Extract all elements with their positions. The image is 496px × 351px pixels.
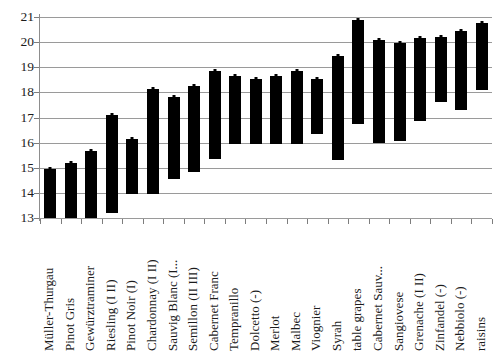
bar [394, 43, 406, 141]
bar [106, 115, 118, 213]
bar-cap [110, 113, 113, 115]
bar-cap [460, 29, 463, 31]
bar-cap [480, 21, 483, 23]
x-tick-label: Malbec [289, 312, 302, 351]
x-tick-label: Dolcetto (-) [248, 290, 261, 351]
y-tick: 13 [0, 211, 34, 225]
y-tick-label: 17 [6, 111, 34, 125]
bar [229, 76, 241, 144]
x-tick-label: Nebbiolo (-) [453, 286, 466, 351]
bar [455, 31, 467, 110]
x-tick-label: raisins [474, 317, 487, 351]
bar [291, 71, 303, 144]
y-tick: 16 [0, 136, 34, 150]
bar [311, 79, 323, 134]
bar-cap [439, 35, 442, 37]
bar [44, 169, 56, 218]
bar [126, 139, 138, 194]
x-tick-label: Merlot [268, 316, 281, 351]
bar [65, 163, 77, 218]
bar-cap [254, 77, 257, 79]
x-tick-label: table grapes [350, 289, 363, 351]
y-tick-label: 18 [6, 85, 34, 99]
y-tick: 20 [0, 35, 34, 49]
y-tick-label: 16 [6, 136, 34, 150]
y-tick: 21 [0, 10, 34, 24]
bar-cap [336, 54, 339, 56]
bar [332, 56, 344, 160]
y-tick: 17 [0, 111, 34, 125]
bar-cap [152, 87, 155, 89]
bar-cap [49, 167, 52, 169]
bar-cap [172, 95, 175, 97]
bar [373, 40, 385, 143]
x-tick-label: Riesling (I II) [104, 280, 117, 351]
bar-cap [131, 137, 134, 139]
y-tick-label: 20 [6, 35, 34, 49]
bar-cap [295, 69, 298, 71]
x-tick-label: Sangiovese [392, 292, 405, 351]
x-tick-label: Pinot Gris [63, 298, 76, 351]
bar-cap [419, 36, 422, 38]
bar-cap [234, 74, 237, 76]
bar [352, 20, 364, 124]
bar-cap [213, 69, 216, 71]
y-tick-label: 15 [6, 161, 34, 175]
bar-cap [275, 74, 278, 76]
x-tick-label: Gewürztraminer [83, 266, 96, 351]
x-tick-label: Sauvig Blanc (I... [166, 260, 179, 351]
x-tick-label: Syrah [330, 321, 343, 351]
bar [414, 38, 426, 121]
bar-cap [398, 41, 401, 43]
x-tick-label: Semillon (II III) [186, 267, 199, 351]
y-tick-label: 14 [6, 186, 34, 200]
bar [476, 23, 488, 90]
bar [188, 86, 200, 171]
bar [147, 89, 159, 195]
y-tick-label: 13 [6, 211, 34, 225]
x-tick-label: Cabernet Franc [207, 271, 220, 351]
bar [209, 71, 221, 159]
y-tick: 19 [0, 60, 34, 74]
x-tick-label: Pinot Noir (I) [124, 280, 137, 351]
y-tick-label: 21 [6, 10, 34, 24]
plot-area [40, 17, 492, 218]
x-tick-label: Grenache (I II) [412, 273, 425, 351]
bar [85, 151, 97, 218]
bar [270, 76, 282, 144]
x-tick-label: Müller-Thurgau [42, 268, 55, 351]
bar [250, 79, 262, 144]
bar-cap [378, 38, 381, 40]
y-tick: 18 [0, 85, 34, 99]
bar [168, 97, 180, 179]
x-tick-label: Viognier [309, 306, 322, 351]
bar-cap [193, 84, 196, 86]
x-tick-label: Tempranillo [227, 288, 240, 351]
bar [435, 37, 447, 102]
y-tick: 14 [0, 186, 34, 200]
bar-chart: 212019181716151413 Müller-ThurgauPinot G… [0, 0, 496, 351]
x-tick-label: Cabernet Sauv... [371, 266, 384, 351]
x-tick-label: Zinfandel (-) [433, 284, 446, 351]
bar-cap [357, 18, 360, 20]
x-axis-labels: Müller-ThurgauPinot GrisGewürztraminerRi… [0, 224, 496, 351]
bar-cap [316, 77, 319, 79]
bar-cap [69, 161, 72, 163]
y-tick-label: 19 [6, 60, 34, 74]
y-tick: 15 [0, 161, 34, 175]
bar-cap [90, 149, 93, 151]
x-tick-label: Chardonnay (I II) [145, 259, 158, 351]
